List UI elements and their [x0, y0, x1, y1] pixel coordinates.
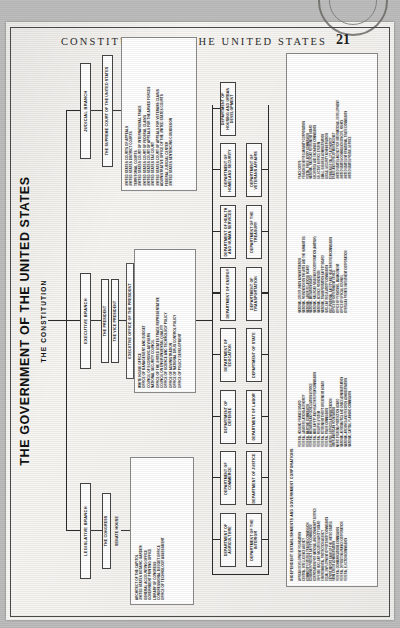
list-independent-col-1: AFRICAN DEVELOPMENT FOUNDATIONCENTRAL IN… — [299, 508, 349, 581]
department-connector — [262, 231, 268, 232]
chart-title: THE GOVERNMENT OF THE UNITED STATES — [18, 27, 32, 615]
independent-agency-item: NATIONAL CAPITAL PLANNING COMMISSION — [349, 372, 353, 447]
line-supreme-to-courts — [113, 110, 121, 111]
department-connector — [262, 416, 268, 417]
judicial-court-item: UNITED STATES SENTENCING COMMISSION — [169, 38, 173, 186]
department-bus-left — [212, 574, 268, 575]
spine-to-legislative — [66, 530, 80, 531]
spine-to-judicial — [66, 110, 80, 111]
eop-item: OFFICE OF POLICY DEVELOPMENT — [178, 250, 182, 388]
spine-to-executive — [66, 320, 80, 321]
department-connector — [212, 292, 220, 293]
chart-region: THE GOVERNMENT OF THE UNITED STATES THE … — [10, 27, 388, 615]
independent-agency-item: NATIONAL ARCHIVES AND RECORDS ADMINISTRA… — [345, 372, 349, 447]
spine-constitution — [48, 320, 66, 321]
department-box: DEPARTMENT OF DEFENSE — [220, 390, 236, 444]
line-president-to-eop — [119, 320, 126, 321]
department-connector — [262, 539, 268, 540]
department-connector — [212, 477, 220, 478]
line-legislative-to-congress — [91, 530, 102, 531]
independent-agency-item: UNITED STATES INTERNATIONAL TRADE COMMIS… — [345, 100, 349, 179]
box-the-vice-president: THE VICE PRESIDENT — [111, 279, 119, 363]
department-bus-bottom — [268, 105, 269, 575]
list-independent-col-4: PEACE CORPSPENSION BENEFIT GUARANTY CORP… — [299, 100, 352, 179]
list-judicial-courts: UNITED STATES COURTS OF APPEALSUNITED ST… — [125, 38, 173, 186]
department-connector — [212, 231, 220, 232]
department-box: DEPARTMENT OF TRANSPORTATION — [246, 267, 262, 321]
legislative-agency-item: OFFICE OF TECHNOLOGY ASSESSMENT — [161, 458, 165, 600]
department-connector — [212, 539, 220, 540]
line-judicial-to-supreme-court — [91, 110, 102, 111]
department-connector — [262, 354, 268, 355]
independent-agency-item: EQUAL EMPLOYMENT OPPORTUNITY COMMISSION — [326, 508, 330, 581]
list-legislative-agencies: ARCHITECT OF THE CAPITOLUNITED STATES BO… — [135, 458, 166, 600]
label-senate-house: SENATE HOUSE — [113, 493, 121, 569]
independent-agency-item: OVERSEAS PRIVATE INVESTMENT CORPORATION — [345, 236, 349, 313]
department-box: DEPARTMENT OF COMMERCE — [220, 451, 236, 505]
department-connector — [212, 108, 220, 109]
department-box: DEPARTMENT OF HOUSING AND URBAN DEVELOPM… — [220, 82, 236, 136]
list-eop-items: WHITE HOUSE OFFICEOFFICE OF MANAGEMENT A… — [138, 250, 182, 388]
department-box: DEPARTMENT OF THE TREASURY — [246, 205, 262, 259]
list-independent-col-2: FEDERAL HOUSING FINANCE BOARDFEDERAL LAB… — [299, 372, 352, 447]
line-congress-to-agencies — [121, 530, 130, 531]
department-box: DEPARTMENT OF THE INTERIOR — [246, 513, 262, 567]
branch-box-judicial: JUDICIAL BRANCH — [80, 63, 91, 159]
independent-agency-item: UNITED STATES POSTAL SERVICE — [349, 100, 353, 179]
box-the-congress: THE CONGRESS — [102, 493, 111, 569]
scanned-page: CONSTITUTION OF THE UNITED STATES 21 THE… — [0, 0, 400, 628]
heading-independent-establishments: INDEPENDENT ESTABLISHMENTS AND GOVERNMEN… — [290, 449, 294, 581]
department-bus-top — [212, 105, 213, 575]
branch-box-legislative: LEGISLATIVE BRANCH — [80, 483, 91, 579]
department-connector — [212, 354, 220, 355]
independent-agency-item: FEDERAL ELECTION COMMISSION — [345, 508, 349, 581]
department-box: DEPARTMENT OF EDUCATION — [220, 328, 236, 382]
chart-subtitle: THE CONSTITUTION — [40, 27, 47, 615]
box-supreme-court: THE SUPREME COURT OF THE UNITED STATES — [102, 55, 113, 167]
department-connector — [262, 477, 268, 478]
line-president-to-departments — [196, 320, 212, 321]
department-connector — [212, 169, 220, 170]
department-box: DEPARTMENT OF HEALTH AND HUMAN SERVICES — [220, 205, 236, 259]
department-box: DEPARTMENT OF JUSTICE — [246, 451, 262, 505]
department-box: DEPARTMENT OF ENERGY — [220, 267, 236, 321]
box-executive-office-of-the-president: EXECUTIVE OFFICE OF THE PRESIDENT — [126, 263, 134, 379]
department-box: DEPARTMENT OF LABOR — [246, 390, 262, 444]
department-box: DEPARTMENT OF HOMELAND SECURITY — [220, 143, 236, 197]
line-executive-to-president — [91, 320, 101, 321]
government-org-chart: THE GOVERNMENT OF THE UNITED STATES THE … — [10, 27, 388, 615]
branch-box-executive: EXECUTIVE BRANCH — [80, 273, 91, 369]
department-connector — [262, 292, 268, 293]
department-box: DEPARTMENT OF STATE — [246, 328, 262, 382]
department-connector — [262, 169, 268, 170]
spine-branch-bar — [66, 111, 67, 531]
department-box: DEPARTMENT OF VETERANS AFFAIRS — [246, 143, 262, 197]
list-independent-col-3: NATIONAL CREDIT UNION ADMINISTRATIONNATI… — [299, 236, 349, 313]
department-box: DEPARTMENT OF AGRICULTURE — [220, 513, 236, 567]
box-the-president: THE PRESIDENT — [101, 279, 109, 363]
department-connector — [212, 416, 220, 417]
